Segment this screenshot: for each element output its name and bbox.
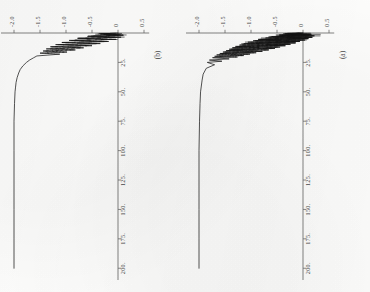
time-tick-label: 50. (304, 87, 311, 96)
value-tick-label: -1.5 (34, 16, 41, 27)
time-tick-label: 200. (119, 262, 126, 274)
oscillation-band (215, 33, 321, 58)
data-trace (14, 33, 123, 268)
chart-panel-a: -2.0-1.5-1.0-0.500.525.50.75.100.125.150… (185, 0, 370, 292)
time-tick-label: 200. (304, 262, 311, 274)
time-tick-label: 100. (304, 144, 311, 156)
value-tick-label: 0 (297, 24, 304, 27)
time-tick-label: 100. (119, 144, 126, 156)
panel-caption: (b) (153, 50, 162, 59)
time-tick-label: 175. (304, 233, 311, 245)
value-tick-label: -1.5 (219, 16, 226, 27)
value-tick-label: 0.5 (323, 18, 330, 27)
time-tick-label: 150. (304, 203, 311, 215)
time-tick-label: 150. (119, 203, 126, 215)
value-tick-label: 0 (112, 24, 119, 27)
time-tick-label: 125. (119, 174, 126, 186)
value-tick-label: -1.0 (60, 16, 67, 27)
value-tick-label: -0.5 (271, 16, 278, 27)
panel-caption: (a) (338, 50, 347, 59)
time-tick-label: 125. (304, 174, 311, 186)
time-tick-label: 75. (304, 117, 311, 126)
value-tick-label: -2.0 (8, 16, 15, 27)
value-tick-label: -1.0 (245, 16, 252, 27)
time-tick-label: 25. (304, 58, 311, 67)
time-tick-label: 175. (119, 233, 126, 245)
chart-panel-b: -2.0-1.5-1.0-0.500.525.50.75.100.125.150… (0, 0, 185, 292)
time-tick-label: 50. (119, 87, 126, 96)
time-tick-label: 25. (119, 58, 126, 67)
data-trace (199, 33, 314, 268)
scanned-figure: -2.0-1.5-1.0-0.500.525.50.75.100.125.150… (0, 0, 370, 292)
value-tick-label: -2.0 (193, 16, 200, 27)
time-tick-label: 75. (119, 117, 126, 126)
value-tick-label: 0.5 (138, 18, 145, 27)
value-tick-label: -0.5 (86, 16, 93, 27)
